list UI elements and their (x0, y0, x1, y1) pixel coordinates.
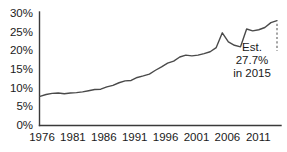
x-tick-label-1986: 1986 (91, 131, 117, 143)
y-axis-tick-labels: 30% 25% 20% 15% 10% 5% 0% (10, 7, 33, 131)
estimate-callout-line-2: 27.7% (236, 54, 269, 66)
y-tick-label-20: 20% (10, 44, 33, 56)
estimate-callout-line-1: Est. (242, 41, 262, 53)
y-tick-label-30: 30% (10, 7, 33, 19)
x-axis-tick-labels: 1976 1981 1986 1991 1996 2001 2006 2011 (29, 131, 270, 143)
y-tick-label-15: 15% (10, 63, 33, 75)
x-tick-label-2006: 2006 (215, 131, 241, 143)
x-tick-label-2001: 2001 (184, 131, 210, 143)
x-tick-label-1981: 1981 (60, 131, 86, 143)
line-chart: 30% 25% 20% 15% 10% 5% 0% 1976 1981 1986… (0, 0, 287, 152)
y-tick-label-25: 25% (10, 26, 33, 38)
y-tick-label-10: 10% (10, 82, 33, 94)
y-tick-label-5: 5% (16, 100, 33, 112)
estimate-callout-line-3: in 2015 (233, 67, 271, 79)
x-tick-label-1996: 1996 (153, 131, 179, 143)
y-tick-label-0: 0% (16, 119, 33, 131)
chart-container: 30% 25% 20% 15% 10% 5% 0% 1976 1981 1986… (0, 0, 287, 152)
x-tick-label-1991: 1991 (122, 131, 148, 143)
x-tick-label-2011: 2011 (246, 131, 271, 143)
x-tick-label-1976: 1976 (29, 131, 55, 143)
